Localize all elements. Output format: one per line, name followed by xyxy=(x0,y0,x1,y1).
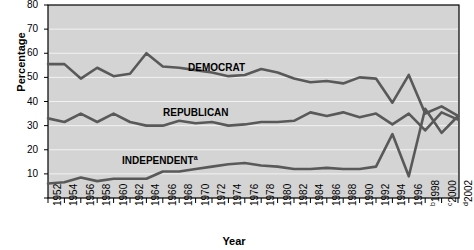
y-tick-label: 70 xyxy=(14,23,38,34)
y-tick-label: 20 xyxy=(14,144,38,155)
x-tick-label: 1972 xyxy=(216,184,227,206)
x-tick-label: 1962 xyxy=(134,184,145,206)
y-tick-label: 80 xyxy=(14,0,38,10)
y-tick-label: 40 xyxy=(14,96,38,107)
x-tick-label: 1964 xyxy=(150,184,161,206)
y-tick-label: 30 xyxy=(14,120,38,131)
x-tick-label: d2002 xyxy=(462,180,474,206)
x-tick-label: 1992 xyxy=(380,184,391,206)
x-tick-superscript: b xyxy=(429,202,436,206)
x-tick-label: 1990 xyxy=(364,184,375,206)
x-tick-label: 1980 xyxy=(282,184,293,206)
x-tick-superscript: c xyxy=(446,203,453,207)
x-tick-label: 1968 xyxy=(183,184,194,206)
x-tick-label: 1960 xyxy=(118,184,129,206)
x-tick-label: b1998 xyxy=(429,180,441,206)
y-tick-label: 60 xyxy=(14,47,38,58)
x-tick-label: 1970 xyxy=(200,184,211,206)
x-tick-label: 1978 xyxy=(265,184,276,206)
x-tick-label: 1988 xyxy=(347,184,358,206)
y-tick-label: 10 xyxy=(14,168,38,179)
x-tick-label: 1954 xyxy=(68,184,79,206)
x-axis-title: Year xyxy=(0,235,468,247)
x-tick-label: 1986 xyxy=(331,184,342,206)
x-tick-label: 1984 xyxy=(314,184,325,206)
x-tick-label: 1996 xyxy=(413,184,424,206)
x-tick-label: 1958 xyxy=(101,184,112,206)
x-tick-label: 1976 xyxy=(249,184,260,206)
series-label-republican: REPUBLICAN xyxy=(163,107,229,118)
x-tick-label: 1994 xyxy=(396,184,407,206)
y-tick-label: 50 xyxy=(14,71,38,82)
x-tick-label: 1956 xyxy=(85,184,96,206)
series-label-superscript: a xyxy=(194,154,198,161)
x-tick-label: 1952 xyxy=(52,184,63,206)
x-tick-label: 1966 xyxy=(167,184,178,206)
x-tick-label: c2000 xyxy=(446,180,458,206)
x-tick-label: 1982 xyxy=(298,184,309,206)
series-label-democrat: DEMOCRAT xyxy=(188,62,245,73)
series-label-independent: INDEPENDENTa xyxy=(122,154,198,166)
x-tick-superscript: d xyxy=(462,202,469,206)
x-tick-label: 1974 xyxy=(232,184,243,206)
